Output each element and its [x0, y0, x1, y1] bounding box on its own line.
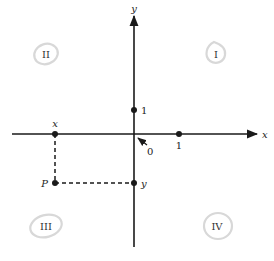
x-projection-label: x — [52, 118, 58, 129]
point-p — [52, 180, 58, 186]
y-unit-point — [131, 107, 137, 113]
y-projection-point — [131, 180, 137, 186]
x-axis-label: x — [262, 129, 268, 140]
quadrant-iv-label: IV — [211, 221, 223, 232]
origin-pointer-arrow — [138, 138, 147, 145]
quadrant-iii-label: III — [40, 221, 52, 232]
point-p-label: P — [40, 178, 48, 189]
y-unit-label: 1 — [141, 105, 147, 116]
x-unit-label: 1 — [176, 140, 182, 151]
cartesian-plane-diagram: II I III IV x y 1 1 0 x P y — [0, 0, 274, 261]
quadrant-i-label: I — [214, 49, 218, 60]
x-unit-point — [176, 131, 182, 137]
origin-label: 0 — [147, 146, 153, 157]
y-projection-label: y — [140, 178, 147, 189]
quadrant-ii-label: II — [42, 49, 50, 60]
y-axis-label: y — [130, 3, 137, 14]
x-projection-point — [52, 131, 58, 137]
